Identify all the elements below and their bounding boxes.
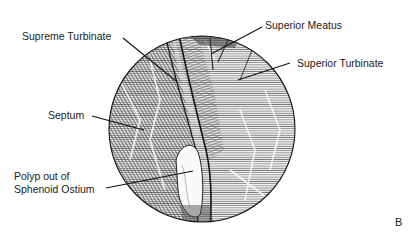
label-superior-meatus: Superior Meatus bbox=[265, 19, 342, 31]
label-septum: Septum bbox=[48, 109, 84, 121]
label-supreme-turbinate: Supreme Turbinate bbox=[22, 30, 111, 42]
label-polyp-line1: Polyp out of bbox=[14, 170, 69, 182]
label-polyp-line2: Sphenoid Ostium bbox=[14, 183, 95, 195]
panel-letter: B bbox=[395, 216, 402, 228]
label-superior-turbinate: Superior Turbinate bbox=[297, 57, 383, 69]
scope-view bbox=[100, 30, 310, 230]
